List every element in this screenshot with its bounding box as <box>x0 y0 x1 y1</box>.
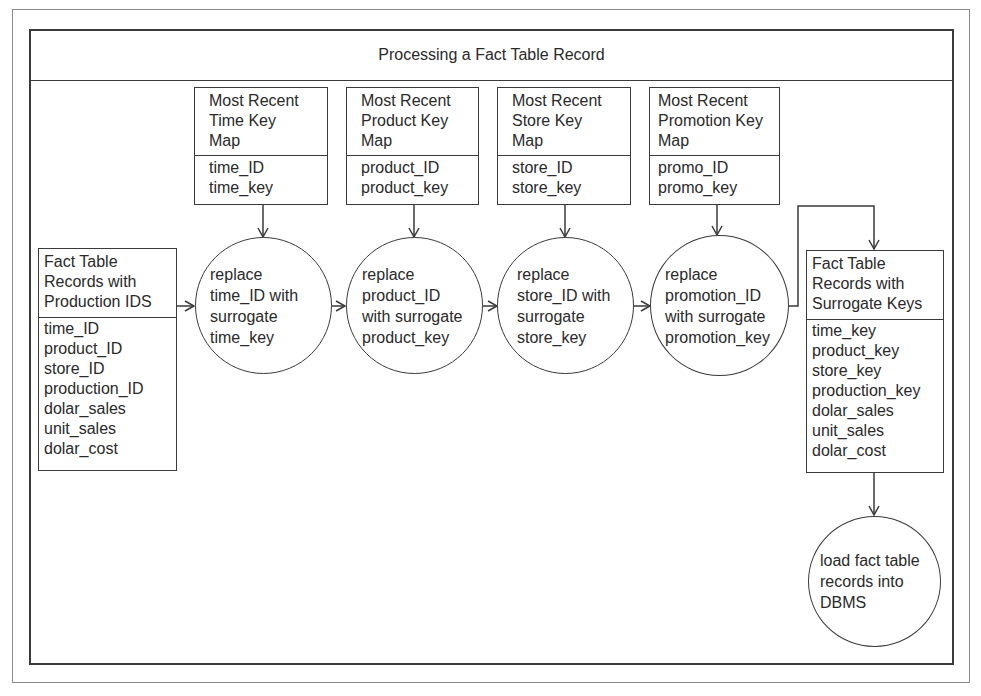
process-text: replace <box>362 264 482 285</box>
process-load-dbms: load fact table records into DBMS <box>808 516 941 647</box>
input-table-title: Records with <box>44 272 176 292</box>
field: dolar_sales <box>44 399 176 419</box>
input-table-title: Fact Table <box>44 252 176 272</box>
process-text: promotion_key <box>665 327 788 348</box>
process-text: store_key <box>517 327 633 348</box>
product-key-map-title: Map <box>361 131 478 151</box>
store-key-map-title: Store Key <box>512 111 630 131</box>
process-text: surrogate <box>210 306 331 327</box>
process-text: load fact table <box>820 550 940 571</box>
field: promo_key <box>658 178 779 198</box>
field: time_key <box>812 321 943 341</box>
field: dolar_sales <box>812 401 943 421</box>
field: dolar_cost <box>44 439 176 459</box>
field: dolar_cost <box>812 441 943 461</box>
field: store_ID <box>512 158 630 178</box>
promotion-key-map-title: Most Recent <box>658 91 779 111</box>
process-text: product_ID <box>362 285 482 306</box>
field: production_ID <box>44 379 176 399</box>
process-text: promotion_ID <box>665 285 788 306</box>
field: store_key <box>812 361 943 381</box>
process-text: replace <box>665 264 788 285</box>
field: production_key <box>812 381 943 401</box>
process-replace-store-id: replace store_ID with surrogate store_ke… <box>497 237 634 374</box>
process-replace-product-id: replace product_ID with surrogate produc… <box>346 237 483 374</box>
input-table-title: Production IDS <box>44 292 176 312</box>
promotion-key-map: Most Recent Promotion Key Map promo_ID p… <box>649 87 780 205</box>
field: product_key <box>361 178 478 198</box>
output-fact-table: Fact Table Records with Surrogate Keys t… <box>806 250 944 473</box>
process-text: with surrogate <box>362 306 482 327</box>
output-table-title: Fact Table <box>812 254 943 274</box>
field: time_ID <box>209 158 327 178</box>
process-text: time_ID with <box>210 285 331 306</box>
field: store_key <box>512 178 630 198</box>
field: product_ID <box>361 158 478 178</box>
process-replace-promotion-id: replace promotion_ID with surrogate prom… <box>650 235 789 376</box>
process-text: replace <box>210 264 331 285</box>
process-replace-time-id: replace time_ID with surrogate time_key <box>195 237 332 374</box>
output-table-title: Surrogate Keys <box>812 294 943 314</box>
store-key-map-title: Most Recent <box>512 91 630 111</box>
process-text: with surrogate <box>665 306 788 327</box>
product-key-map: Most Recent Product Key Map product_ID p… <box>346 87 479 205</box>
store-key-map-title: Map <box>512 131 630 151</box>
process-text: product_key <box>362 327 482 348</box>
process-text: store_ID with <box>517 285 633 306</box>
process-text: DBMS <box>820 592 940 613</box>
process-text: replace <box>517 264 633 285</box>
field: product_ID <box>44 339 176 359</box>
store-key-map: Most Recent Store Key Map store_ID store… <box>497 87 631 205</box>
process-text: surrogate <box>517 306 633 327</box>
field: promo_ID <box>658 158 779 178</box>
time-key-map-title: Map <box>209 131 327 151</box>
field: unit_sales <box>44 419 176 439</box>
process-text: time_key <box>210 327 331 348</box>
field: unit_sales <box>812 421 943 441</box>
field: product_key <box>812 341 943 361</box>
product-key-map-title: Most Recent <box>361 91 478 111</box>
output-table-title: Records with <box>812 274 943 294</box>
time-key-map: Most Recent Time Key Map time_ID time_ke… <box>194 87 328 205</box>
promotion-key-map-title: Map <box>658 131 779 151</box>
process-text: records into <box>820 571 940 592</box>
time-key-map-title: Most Recent <box>209 91 327 111</box>
field: time_key <box>209 178 327 198</box>
time-key-map-title: Time Key <box>209 111 327 131</box>
field: store_ID <box>44 359 176 379</box>
field: time_ID <box>44 319 176 339</box>
promotion-key-map-title: Promotion Key <box>658 111 779 131</box>
input-fact-table: Fact Table Records with Production IDS t… <box>38 248 177 471</box>
product-key-map-title: Product Key <box>361 111 478 131</box>
